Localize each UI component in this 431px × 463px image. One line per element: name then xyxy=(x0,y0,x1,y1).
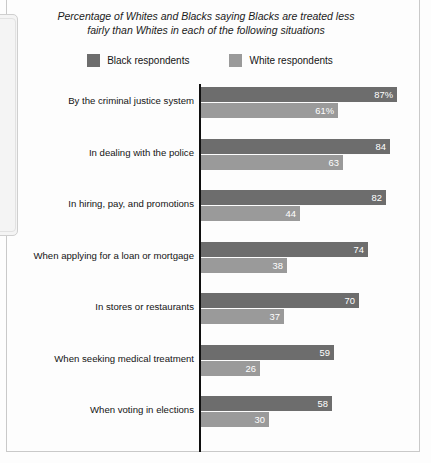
chart-page: Percentage of Whites and Blacks saying B… xyxy=(0,0,431,463)
chart-title-line-1: Percentage of Whites and Blacks saying B… xyxy=(34,9,378,23)
bar-value-label: 70 xyxy=(345,293,355,308)
bar-group: In stores or restaurants7037 xyxy=(0,293,431,325)
bar-value-label: 44 xyxy=(286,206,296,221)
legend-swatch-icon-black-respondents xyxy=(87,54,100,67)
bar-black-respondents: 74 xyxy=(201,242,368,257)
bar-black-respondents: 84 xyxy=(201,139,390,154)
bar-black-respondents: 58 xyxy=(201,396,332,411)
legend-label-black-respondents: Black respondents xyxy=(107,55,189,66)
bar-value-label: 59 xyxy=(320,345,330,360)
bar-white-respondents: 26 xyxy=(201,361,260,376)
bar-value-label: 63 xyxy=(329,155,339,170)
bar-white-respondents: 44 xyxy=(201,206,300,221)
bar-white-respondents: 30 xyxy=(201,412,269,427)
bar-group: By the criminal justice system87%61% xyxy=(0,87,431,119)
bar-white-respondents: 61% xyxy=(201,103,338,118)
bar-value-label: 37 xyxy=(270,309,280,324)
category-label: In hiring, pay, and promotions xyxy=(4,198,194,209)
bar-group: In dealing with the police8463 xyxy=(0,139,431,171)
bar-white-respondents: 63 xyxy=(201,155,343,170)
bar-black-respondents: 87% xyxy=(201,87,397,102)
bar-white-respondents: 38 xyxy=(201,258,287,273)
category-label: When seeking medical treatment xyxy=(4,353,194,364)
bar-group: When seeking medical treatment5926 xyxy=(0,345,431,377)
bar-value-label: 38 xyxy=(273,258,283,273)
category-label: When voting in elections xyxy=(4,404,194,415)
bar-value-label: 74 xyxy=(354,242,364,257)
bar-value-label: 58 xyxy=(318,396,328,411)
category-label: When applying for a loan or mortgage xyxy=(4,250,194,261)
legend-item-black-respondents: Black respondents xyxy=(87,54,189,67)
category-label: In dealing with the police xyxy=(4,147,194,158)
bar-value-label: 82 xyxy=(372,190,382,205)
bar-value-label: 26 xyxy=(246,361,256,376)
bar-value-label: 84 xyxy=(376,139,386,154)
bar-group: When applying for a loan or mortgage7438 xyxy=(0,242,431,274)
chart-title: Percentage of Whites and Blacks saying B… xyxy=(34,9,378,37)
bar-black-respondents: 82 xyxy=(201,190,386,205)
bar-group: In hiring, pay, and promotions8244 xyxy=(0,190,431,222)
bar-black-respondents: 70 xyxy=(201,293,359,308)
bar-value-label: 30 xyxy=(255,412,265,427)
bar-value-label: 87% xyxy=(374,87,393,102)
chart-title-line-2: fairly than Whites in each of the follow… xyxy=(34,23,378,37)
category-label: In stores or restaurants xyxy=(4,301,194,312)
bar-black-respondents: 59 xyxy=(201,345,334,360)
legend-item-white-respondents: White respondents xyxy=(229,54,332,67)
bar-group: When voting in elections5830 xyxy=(0,396,431,428)
chart-legend: Black respondents White respondents xyxy=(60,52,360,68)
legend-swatch-icon-white-respondents xyxy=(229,54,242,67)
category-label: By the criminal justice system xyxy=(4,95,194,106)
plot-area: By the criminal justice system87%61%In d… xyxy=(0,84,431,454)
bar-white-respondents: 37 xyxy=(201,309,284,324)
bar-value-label: 61% xyxy=(315,103,334,118)
legend-label-white-respondents: White respondents xyxy=(249,55,332,66)
